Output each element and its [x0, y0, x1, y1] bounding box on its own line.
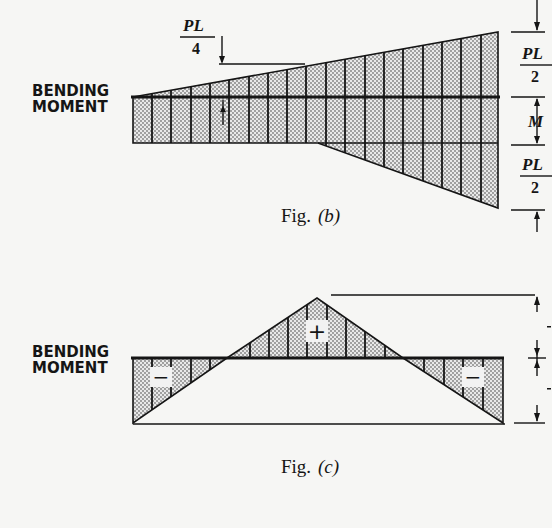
fig-c-caption-prefix: Fig. — [281, 456, 311, 477]
fig-b-dim-top-denominator: 2 — [531, 68, 539, 85]
fig-c-dimension-ticks — [547, 326, 551, 390]
fig-b-caption-letter: (b) — [318, 205, 340, 227]
fig-b-caption-prefix: Fig. — [281, 205, 311, 226]
fig-c-caption-letter: (c) — [318, 456, 339, 478]
fig-b-dim-bottom-numerator: PL — [521, 155, 543, 174]
fig-c-right-negative-area — [403, 358, 503, 423]
fig-b-dim-bottom-denominator: 2 — [531, 179, 539, 196]
fig-b-axis-label-line2: MOMENT — [32, 98, 108, 116]
fig-c-center-sign: + — [308, 319, 326, 344]
fig-b-dim-top-numerator: PL — [521, 44, 543, 63]
fig-c-right-sign: − — [465, 365, 482, 389]
fig-c-diagram — [131, 290, 551, 430]
fig-c-axis-label-line2: MOMENT — [32, 359, 108, 377]
bending-moment-diagrams: PL 4 BENDING MOMENT PL 2 M PL 2 Fig. (b) — [0, 0, 552, 528]
fig-b-moment-area — [133, 32, 498, 208]
fig-c-dimension-lines — [528, 297, 546, 421]
fig-b-pl4-leader — [219, 36, 305, 64]
fig-c-left-negative-area — [133, 358, 227, 423]
fig-b-pl4-denominator: 4 — [192, 40, 200, 57]
fig-b-pl4-numerator: PL — [182, 16, 204, 35]
fig-b-dim-m-label: M — [527, 112, 544, 131]
fig-c-left-sign: − — [153, 365, 170, 389]
